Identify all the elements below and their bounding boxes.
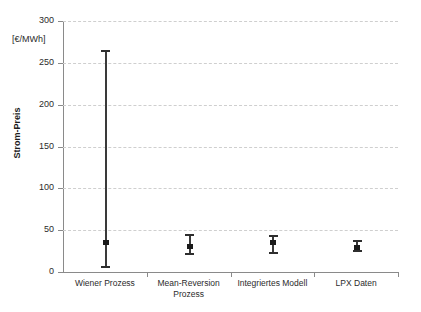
gridline	[63, 21, 398, 22]
y-tick-label: 300	[14, 16, 54, 25]
errorbar-cap-upper	[185, 234, 194, 236]
errorbar-cap-upper	[101, 50, 110, 52]
errorbar-mean-marker	[103, 240, 109, 245]
y-tick-label: 150	[14, 142, 54, 151]
gridline	[63, 105, 398, 106]
gridline	[63, 188, 398, 189]
y-tick-mark	[58, 105, 63, 106]
y-tick-mark	[58, 272, 63, 273]
plot-area	[63, 21, 398, 272]
x-tick-label: LPX Daten	[300, 278, 412, 289]
y-tick-mark	[58, 188, 63, 189]
errorbar-stem	[105, 50, 107, 268]
errorbar-cap-lower	[101, 266, 110, 268]
gridline	[63, 63, 398, 64]
errorbar-cap-lower	[269, 252, 278, 254]
errorbar-mean-marker	[354, 245, 360, 250]
x-tick-mark	[147, 272, 148, 277]
x-tick-mark	[398, 272, 399, 277]
errorbar-cap-upper	[269, 235, 278, 237]
x-tick-label-line: Prozess	[133, 289, 245, 300]
y-tick-label: 200	[14, 100, 54, 109]
chart-container: [€/MWh] Strom-Preis 050100150200250300 W…	[0, 0, 421, 312]
y-tick-label: 100	[14, 183, 54, 192]
y-tick-label: 250	[14, 58, 54, 67]
gridline	[63, 147, 398, 148]
y-tick-mark	[58, 21, 63, 22]
errorbar-mean-marker	[270, 240, 276, 245]
y-tick-mark	[58, 230, 63, 231]
x-tick-label-line: LPX Daten	[300, 278, 412, 289]
y-axis-unit-label: [€/MWh]	[12, 35, 46, 44]
errorbar-cap-lower	[185, 253, 194, 255]
x-tick-mark	[314, 272, 315, 277]
x-tick-mark	[231, 272, 232, 277]
y-tick-label: 50	[14, 225, 54, 234]
y-tick-mark	[58, 147, 63, 148]
gridline	[63, 230, 398, 231]
errorbar-cap-upper	[353, 240, 362, 242]
y-tick-mark	[58, 63, 63, 64]
errorbar-mean-marker	[187, 244, 193, 249]
y-tick-label: 0	[14, 267, 54, 276]
